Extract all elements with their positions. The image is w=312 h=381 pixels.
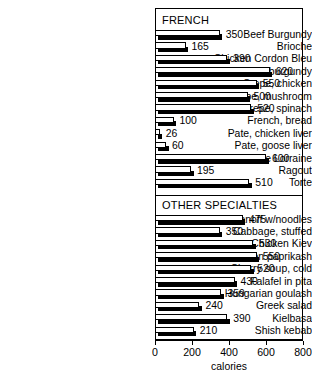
bar-face	[155, 80, 257, 86]
bar-value-label: 475	[249, 214, 266, 225]
bar: 165	[155, 42, 190, 53]
bar-face	[155, 154, 266, 160]
bar-value-label: 550	[263, 78, 280, 89]
bar-value-label: 620	[276, 66, 293, 77]
bar: 600	[155, 154, 270, 165]
bar-value-label: 26	[166, 128, 178, 139]
bar-value-label: 359	[227, 288, 244, 299]
bar-face	[155, 142, 166, 148]
bar-value-label: 500	[254, 91, 271, 102]
x-tick	[229, 341, 230, 345]
bar: 60	[155, 142, 170, 153]
bar-face	[155, 289, 221, 295]
x-tick-label: 600	[257, 346, 275, 358]
bar: 620	[155, 67, 274, 78]
category-label: Pate, goose liver	[162, 140, 312, 151]
x-tick-label: 200	[183, 346, 201, 358]
bar-face	[155, 67, 270, 73]
bar-face	[155, 42, 186, 48]
x-tick-label: 0	[152, 346, 158, 358]
bar-value-label: 195	[197, 165, 214, 176]
bar-value-label: 210	[200, 325, 217, 336]
bar-value-label: 510	[255, 177, 272, 188]
bar-face	[155, 240, 253, 246]
bar-face	[155, 179, 249, 185]
bar: 100	[155, 117, 178, 128]
bar: 390	[155, 314, 231, 325]
x-axis-title: calories	[155, 361, 303, 373]
bar: 390	[155, 55, 231, 66]
x-tick	[266, 341, 267, 345]
bar: 359	[155, 289, 225, 300]
bar-face	[155, 302, 199, 308]
bar: 500	[155, 92, 252, 103]
bar-face	[155, 92, 248, 98]
bar: 550	[155, 252, 261, 263]
x-tick-label: 400	[220, 346, 238, 358]
bar-face	[155, 277, 235, 283]
bar: 520	[155, 104, 255, 115]
bar-face	[155, 215, 243, 221]
bar: 350	[155, 227, 224, 238]
x-tick	[155, 341, 156, 345]
bar-value-label: 350	[226, 29, 243, 40]
x-tick	[192, 341, 193, 345]
bar-face	[155, 55, 227, 61]
bar-face	[155, 314, 227, 320]
category-label: Pate, chicken liver	[162, 128, 312, 139]
calories-bar-chart: Beef BurgundyBriocheChicken Cordon BleuC…	[0, 0, 312, 381]
bar-value-label: 520	[257, 103, 274, 114]
bar: 550	[155, 80, 261, 91]
bar: 530	[155, 240, 257, 251]
bar: 510	[155, 179, 253, 190]
bar: 210	[155, 327, 198, 338]
bar: 475	[155, 215, 247, 226]
section-title-1: FRENCH	[162, 14, 209, 26]
bar-face	[155, 327, 194, 333]
bar-value-label: 600	[272, 153, 289, 164]
bar: 350	[155, 30, 224, 41]
bar-face	[155, 227, 220, 233]
bar: 520	[155, 265, 255, 276]
bar-value-label: 100	[180, 115, 197, 126]
bar: 430	[155, 277, 239, 288]
bar-face	[155, 252, 257, 258]
bar-value-label: 350	[226, 226, 243, 237]
bar-value-label: 165	[192, 41, 209, 52]
bar-value-label: 390	[233, 313, 250, 324]
x-tick	[303, 341, 304, 345]
bar: 26	[155, 129, 164, 140]
bar-face	[155, 265, 251, 271]
bar-face	[155, 30, 220, 36]
bar-value-label: 240	[205, 300, 222, 311]
bar-face	[155, 104, 251, 110]
bar-face	[155, 117, 174, 123]
bar-value-label: 390	[233, 53, 250, 64]
bar-value-label: 430	[241, 276, 258, 287]
bar-value-label: 60	[172, 140, 184, 151]
bar: 240	[155, 302, 203, 313]
bar: 195	[155, 166, 195, 177]
bar-face	[155, 166, 191, 172]
x-tick-label: 800	[294, 346, 312, 358]
bar-value-label: 550	[263, 251, 280, 262]
section-divider	[155, 195, 303, 196]
section-title-2: OTHER SPECIALTIES	[162, 199, 277, 211]
bar-face	[155, 129, 160, 135]
bar-value-label: 530	[259, 238, 276, 249]
bar-value-label: 520	[257, 263, 274, 274]
